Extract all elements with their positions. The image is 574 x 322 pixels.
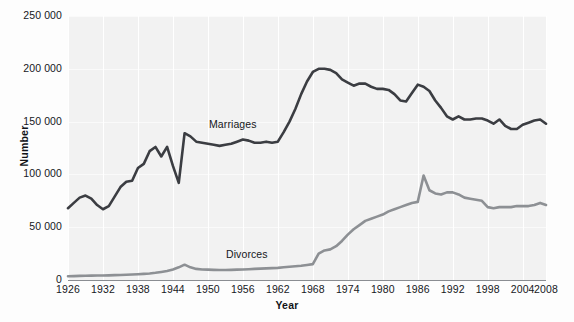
x-axis-tick-label: 1926	[56, 283, 80, 295]
x-axis-tick-label: 1986	[406, 283, 430, 295]
x-axis-title: Year	[0, 299, 574, 311]
x-axis-tick-label: 1938	[126, 283, 150, 295]
y-axis-tick-label: 250 000	[23, 9, 62, 21]
x-axis-tick-label: 1944	[161, 283, 185, 295]
x-axis-tick-label: 1962	[266, 283, 290, 295]
x-axis-tick-labels: 1926193219381944195019561962196819741980…	[0, 283, 574, 299]
y-axis-tick-label: 200 000	[23, 62, 62, 74]
x-axis-tick-label: 1950	[196, 283, 220, 295]
x-axis-tick-label: 1974	[336, 283, 360, 295]
y-axis-title: Number	[18, 106, 30, 186]
x-axis-tick-label: 1992	[441, 283, 465, 295]
x-axis-tick-label: 1968	[301, 283, 325, 295]
x-axis-tick-label: 2004	[511, 283, 535, 295]
series-line-divorces	[68, 175, 546, 276]
x-axis-tick-label: 1980	[371, 283, 395, 295]
series-line-marriages	[68, 69, 546, 209]
series-label-marriages: Marriages	[209, 118, 257, 130]
x-axis-tick-label: 2008	[534, 283, 558, 295]
x-axis-tick-label: 1932	[91, 283, 115, 295]
y-axis-tick-labels: 050 000100 000150 000200 000250 000	[0, 0, 62, 322]
marriages-divorces-line-chart: 050 000100 000150 000200 000250 000 1926…	[0, 0, 574, 322]
x-axis-tick-label: 1956	[231, 283, 255, 295]
series-label-divorces: Divorces	[226, 248, 268, 260]
y-axis-tick-label: 50 000	[29, 220, 62, 232]
x-axis-tick-label: 1998	[476, 283, 500, 295]
chart-canvas	[0, 0, 574, 322]
